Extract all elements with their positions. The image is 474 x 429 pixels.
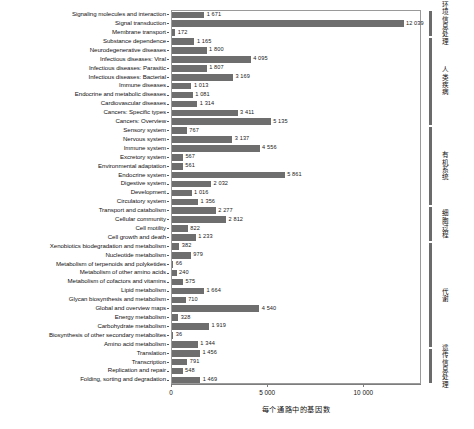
y-tick-mark	[167, 228, 170, 229]
group-bracket	[429, 11, 432, 36]
bar	[172, 359, 187, 366]
group-label: 有机系统	[439, 151, 449, 181]
bar-value-label: 2 277	[218, 206, 233, 214]
bar-row: 1 664	[172, 287, 422, 295]
bar-row: 1 233	[172, 234, 422, 242]
bar-value-label: 4 095	[253, 54, 268, 62]
bar-value-label: 575	[186, 277, 196, 285]
y-tick-label: Metabolism of cofactors and vitamins	[68, 277, 166, 285]
y-tick-label: Metabolism of other amino acids	[80, 268, 166, 276]
x-tick-label: 5 000	[259, 389, 275, 396]
bar	[172, 297, 186, 304]
bar-row: 12 039	[172, 20, 422, 28]
bar-value-label: 1 800	[209, 45, 224, 53]
x-tick-mark	[363, 384, 364, 387]
y-tick-mark	[167, 344, 170, 345]
bar-row: 710	[172, 296, 422, 304]
y-tick-label: Energy metabolism	[115, 313, 166, 321]
bar	[172, 74, 233, 81]
bar-value-label: 791	[190, 357, 200, 365]
y-tick-mark	[167, 157, 170, 158]
y-tick-mark	[167, 112, 170, 113]
bar	[172, 56, 251, 63]
bar-row: 1 314	[172, 100, 422, 108]
group-bracket	[429, 127, 432, 205]
bar-value-label: 1 081	[195, 90, 210, 98]
bar-row: 240	[172, 269, 422, 277]
y-tick-label: Cancers: Specific types	[103, 108, 166, 116]
bar-value-label: 240	[179, 268, 189, 276]
y-tick-mark	[167, 291, 170, 292]
bar	[172, 20, 404, 27]
group-label: 人类疾病	[439, 66, 449, 96]
y-tick-label: Metabolism of terpenoids and polyketides	[56, 260, 166, 268]
group-label: 细胞过程	[439, 209, 449, 239]
bar-value-label: 4 540	[262, 304, 277, 312]
bar	[172, 270, 177, 277]
y-tick-mark	[167, 41, 170, 42]
y-tick-mark	[167, 175, 170, 176]
bar-value-label: 66	[176, 259, 182, 267]
y-tick-label: Nucleotide metabolism	[105, 251, 166, 259]
y-tick-label: Substance dependence	[103, 37, 166, 45]
bar	[172, 154, 183, 161]
bar	[172, 341, 198, 348]
y-tick-label: Cancers: Overview	[115, 117, 166, 125]
group-band: 人类疾病	[425, 37, 474, 126]
bar-value-label: 172	[178, 28, 188, 36]
group-bracket	[429, 38, 432, 125]
y-tick-mark	[167, 308, 170, 309]
bar-value-label: 36	[176, 330, 182, 338]
x-axis-line	[171, 384, 421, 385]
bar	[172, 207, 216, 214]
bar-value-label: 548	[185, 366, 195, 374]
y-tick-mark	[167, 95, 170, 96]
bar-value-label: 567	[185, 152, 195, 160]
bar-value-label: 1 314	[200, 99, 215, 107]
bar-value-label: 822	[190, 224, 200, 232]
y-tick-mark	[167, 246, 170, 247]
x-tick-mark	[267, 384, 268, 387]
bar-row: 2 812	[172, 216, 422, 224]
bar	[172, 199, 198, 206]
bar-value-label: 979	[193, 250, 203, 258]
bar	[172, 83, 191, 90]
y-tick-mark	[167, 68, 170, 69]
bar	[172, 368, 183, 375]
bar	[172, 216, 226, 223]
y-tick-mark	[167, 184, 170, 185]
y-tick-mark	[167, 299, 170, 300]
bar	[172, 110, 238, 117]
y-tick-label: Infectious diseases: Viral	[100, 55, 166, 63]
bar-value-label: 1 664	[207, 286, 222, 294]
y-tick-label: Endocrine system	[118, 171, 166, 179]
y-tick-mark	[167, 237, 170, 238]
bar	[172, 252, 191, 259]
bar-value-label: 3 411	[240, 108, 254, 116]
bar	[172, 181, 211, 188]
y-tick-mark	[167, 130, 170, 131]
bar	[172, 314, 178, 321]
group-band: 遗传信息处理	[425, 348, 474, 384]
y-tick-label: Replication and repair	[108, 366, 166, 374]
y-tick-mark	[167, 371, 170, 372]
bar	[172, 332, 173, 339]
x-tick-label: 10 000	[354, 389, 374, 396]
bar-value-label: 3 137	[235, 134, 250, 142]
bar-value-label: 1 165	[197, 37, 212, 45]
x-tick-label: 0	[169, 389, 173, 396]
bar-row: 382	[172, 243, 422, 251]
y-tick-label: Glycan biosynthesis and metabolism	[69, 295, 166, 303]
bar-row: 567	[172, 153, 422, 161]
bar-row: 1 456	[172, 349, 422, 357]
y-tick-label: Carbohydrate metabolism	[97, 322, 166, 330]
y-tick-label: Translation	[137, 349, 166, 357]
bar	[172, 127, 187, 134]
y-tick-mark	[167, 380, 170, 381]
bar-value-label: 710	[188, 295, 198, 303]
bar	[172, 145, 260, 152]
bar	[172, 92, 193, 99]
y-tick-label: Cell motility	[135, 224, 166, 232]
y-axis-category-labels: Signaling molecules and interactionSigna…	[0, 10, 169, 384]
y-tick-mark	[167, 264, 170, 265]
